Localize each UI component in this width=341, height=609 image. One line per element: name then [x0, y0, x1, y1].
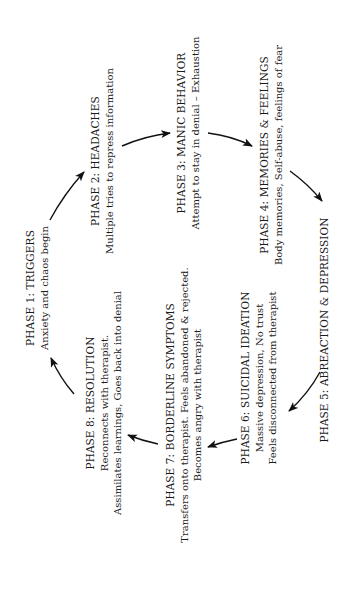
phase-description: Feels disconnected from therapist: [266, 291, 280, 464]
phase-description: Body memories, Self-abuse, feelings of f…: [271, 45, 285, 265]
phase-title: PHASE 6: SUICIDAL IDEATION: [239, 291, 253, 464]
phase-description: Reconnects with therapist.: [97, 291, 111, 515]
arrow-phase7-to-phase8: [128, 435, 158, 444]
arrow-phase1-to-phase2: [50, 172, 84, 220]
phase-1-triggers: PHASE 1: TRIGGERS Anxiety and chaos begi…: [24, 226, 51, 350]
arrow-phase6-to-phase7: [208, 439, 237, 447]
arrow-phase4-to-phase5: [290, 171, 322, 201]
phase-description: Attempt to stay in denial – Exhaustion: [188, 36, 202, 229]
phase-3-manic-behavior: PHASE 3: MANIC BEHAVIOR Attempt to stay …: [175, 36, 202, 229]
arrow-phase3-to-phase4: [208, 133, 252, 146]
arrow-phase8-to-phase1: [51, 358, 74, 394]
phase-title: PHASE 4: MEMORIES & FEELINGS: [258, 45, 272, 265]
phase-4-memories-feelings: PHASE 4: MEMORIES & FEELINGS Body memori…: [258, 45, 285, 265]
phase-title: PHASE 8: RESOLUTION: [84, 291, 98, 515]
arrow-phase5-to-phase6: [289, 372, 320, 411]
phase-8-resolution: PHASE 8: RESOLUTION Reconnects with ther…: [84, 291, 125, 515]
phase-title: PHASE 5: ABREACTION & DEPRESSION: [318, 217, 332, 442]
phase-description: Multiple tries to repress information: [102, 68, 116, 254]
arrow-phase2-to-phase3: [122, 133, 170, 146]
phase-description: Anxiety and chaos begin: [37, 226, 51, 350]
phase-title: PHASE 1: TRIGGERS: [24, 226, 38, 350]
phase-6-suicidal-ideation: PHASE 6: SUICIDAL IDEATION Massive depre…: [239, 291, 280, 464]
phase-2-headaches: PHASE 2: HEADACHES Multiple tries to rep…: [89, 68, 116, 254]
phase-title: PHASE 3: MANIC BEHAVIOR: [175, 36, 189, 229]
phase-description: Transfers onto therapist. Feels abandone…: [177, 267, 191, 542]
phase-description: Massive depression, No trust: [252, 291, 266, 464]
phase-description: Assimilates learnings, Goes back into de…: [111, 291, 125, 515]
phase-5-abreaction-depression: PHASE 5: ABREACTION & DEPRESSION: [318, 217, 332, 442]
phase-7-borderline-symptoms: PHASE 7: BORDERLINE SYMPTOMS Transfers o…: [164, 267, 205, 542]
phase-title: PHASE 7: BORDERLINE SYMPTOMS: [164, 267, 178, 542]
phase-title: PHASE 2: HEADACHES: [89, 68, 103, 254]
phase-description: Becomes angry with therapist: [191, 267, 205, 542]
